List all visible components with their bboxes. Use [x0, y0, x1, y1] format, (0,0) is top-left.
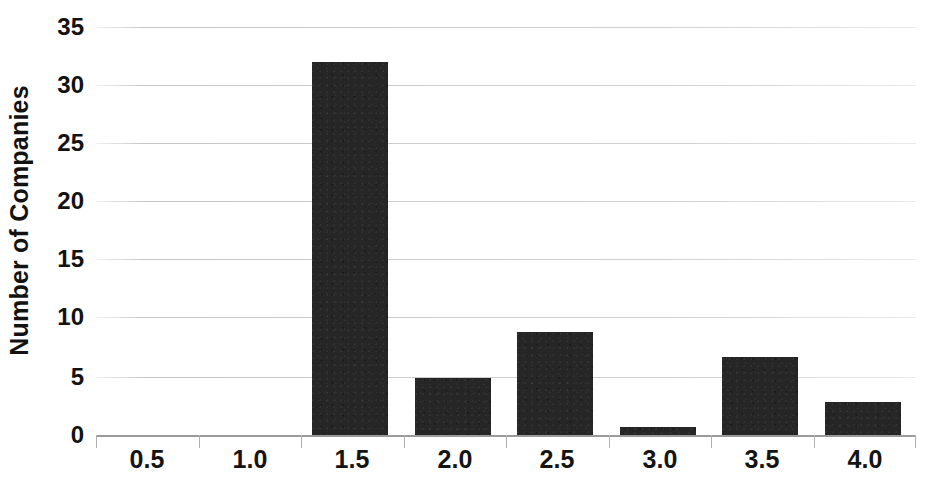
bar-3.0[interactable] [620, 427, 696, 435]
y-axis-tick-labels: 35 30 25 20 15 10 5 0 [38, 0, 90, 488]
bar-chart: Number of Companies 35 30 25 20 15 10 5 … [0, 0, 933, 488]
y-tick-label: 5 [71, 365, 84, 389]
y-tick-label: 20 [57, 189, 84, 213]
bar-2.5[interactable] [517, 332, 593, 435]
plot-area [96, 0, 916, 435]
bars-layer [96, 0, 916, 435]
y-tick-label: 35 [57, 15, 84, 39]
x-tick-label-2.5: 2.5 [540, 446, 575, 474]
x-tick-label-4.0: 4.0 [848, 446, 883, 474]
y-tick-label: 25 [57, 131, 84, 155]
x-tick-label-2.0: 2.0 [438, 446, 473, 474]
y-tick-label: 10 [57, 305, 84, 329]
bar-3.5[interactable] [722, 357, 798, 435]
y-axis-title: Number of Companies [0, 0, 38, 440]
x-tick-label-3.5: 3.5 [745, 446, 780, 474]
y-tick-label: 15 [57, 247, 84, 271]
bar-1.5[interactable] [312, 62, 388, 435]
y-axis-title-label: Number of Companies [5, 85, 34, 356]
x-tick-label-3.0: 3.0 [643, 446, 678, 474]
x-tick-label-1.5: 1.5 [335, 446, 370, 474]
bar-2.0[interactable] [415, 378, 491, 435]
x-tick-label-0.5: 0.5 [130, 446, 165, 474]
y-tick-label: 30 [57, 73, 84, 97]
x-axis-tick-labels: 0.5 1.0 1.5 2.0 2.5 3.0 3.5 4.0 [96, 446, 916, 488]
bar-4.0[interactable] [825, 402, 901, 435]
x-tick-label-1.0: 1.0 [233, 446, 268, 474]
y-tick-label: 0 [71, 423, 84, 447]
